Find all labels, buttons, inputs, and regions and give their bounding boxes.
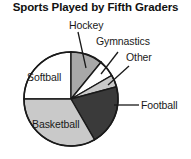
pie-label-football: Football <box>141 99 178 111</box>
pie-label-gymnastics: Gymnastics <box>96 35 150 47</box>
pie-chart-figure: Sports Played by Fifth Graders Hockey Gy… <box>0 0 191 159</box>
pie-label-softball: Softball <box>27 71 61 83</box>
pie-label-basketball: Basketball <box>32 118 79 130</box>
pie-label-hockey: Hockey <box>69 19 103 31</box>
pie-label-other: Other <box>126 51 152 63</box>
